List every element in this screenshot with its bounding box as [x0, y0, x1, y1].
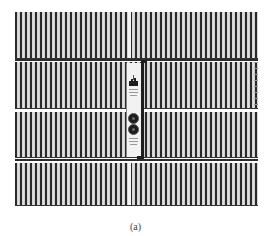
round-knob-icon[interactable] [128, 113, 139, 124]
panel-notch-top [141, 60, 147, 63]
slot-row-1 [15, 12, 258, 59]
panel-notch-bottom [137, 156, 144, 159]
slot-row-4 [15, 163, 258, 206]
rail-2 [15, 159, 258, 161]
figure-caption: (a) [0, 221, 271, 232]
round-knob-icon[interactable] [128, 124, 139, 135]
panel-label-line [129, 89, 138, 90]
row-1-divider [128, 12, 131, 58]
panel-edge [141, 62, 144, 158]
chart-logo-icon [128, 75, 139, 86]
panel-label-line [129, 92, 138, 93]
panel-label-line [129, 138, 138, 139]
panel-label-line [129, 141, 138, 142]
panel-label-line [130, 144, 137, 145]
side-vent-lines [254, 62, 258, 108]
panel-label-line [130, 95, 137, 96]
rail-1 [15, 59, 258, 61]
row-4-divider [128, 163, 131, 205]
